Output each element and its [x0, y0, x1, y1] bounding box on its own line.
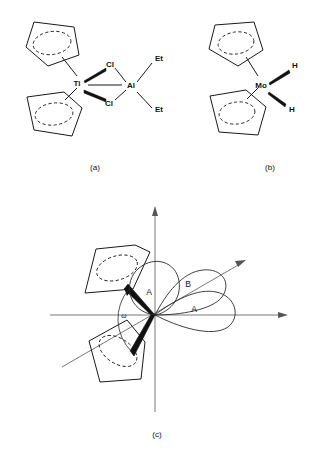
- panel-c-lobe-diagonal-label: B: [185, 279, 191, 289]
- panel-b-atom-mo: Mo: [255, 81, 267, 90]
- panel-c-lobe-right-label: A: [191, 304, 197, 314]
- panel-b-cp-ring-upper: [209, 22, 263, 76]
- panel-a-et-bonds: [137, 63, 152, 108]
- panel-a-atom-cl-bottom: Cl: [105, 99, 113, 108]
- panel-c-caption: (c): [152, 430, 162, 439]
- panel-a-atom-cl-top: Cl: [106, 60, 114, 69]
- panel-c-lobe-upper-label: A: [146, 287, 152, 297]
- panel-c-lobe-upper: [129, 261, 179, 315]
- panel-a-atom-al: Al: [127, 81, 135, 90]
- panel-c: ω A B A (c): [50, 206, 288, 439]
- panel-a-cp-ring-lower: [27, 88, 82, 136]
- panel-c-angle-label: ω: [121, 311, 126, 320]
- panel-b-atom-h-top: H: [292, 61, 298, 70]
- panel-a-bridge-bonds: [84, 68, 126, 102]
- panel-a-group-et-top: Et: [155, 54, 163, 63]
- panel-b: Mo H H (b): [209, 22, 298, 172]
- panel-c-orbital-lobes: A B A: [129, 261, 235, 331]
- panel-b-hydride-bonds: [268, 70, 290, 107]
- panel-c-y-axis: [152, 206, 158, 412]
- figure-container: Ti Cl Cl Al Et Et (a): [0, 0, 319, 451]
- panel-c-x-axis: [50, 312, 288, 318]
- panel-a-group-et-bottom: Et: [155, 105, 163, 114]
- panel-c-cp-ring-upper-left: [85, 245, 150, 293]
- panel-a-atom-ti: Ti: [74, 79, 81, 88]
- panel-a-caption: (a): [90, 163, 100, 172]
- panel-b-atom-h-bottom: H: [289, 105, 295, 114]
- panel-c-angle-arc: ω: [118, 289, 132, 352]
- panel-a-cp-ring-upper: [26, 22, 79, 76]
- panel-a: Ti Cl Cl Al Et Et (a): [26, 22, 163, 172]
- panel-b-caption: (b): [265, 163, 275, 172]
- panel-b-cp-ring-lower: [210, 88, 266, 135]
